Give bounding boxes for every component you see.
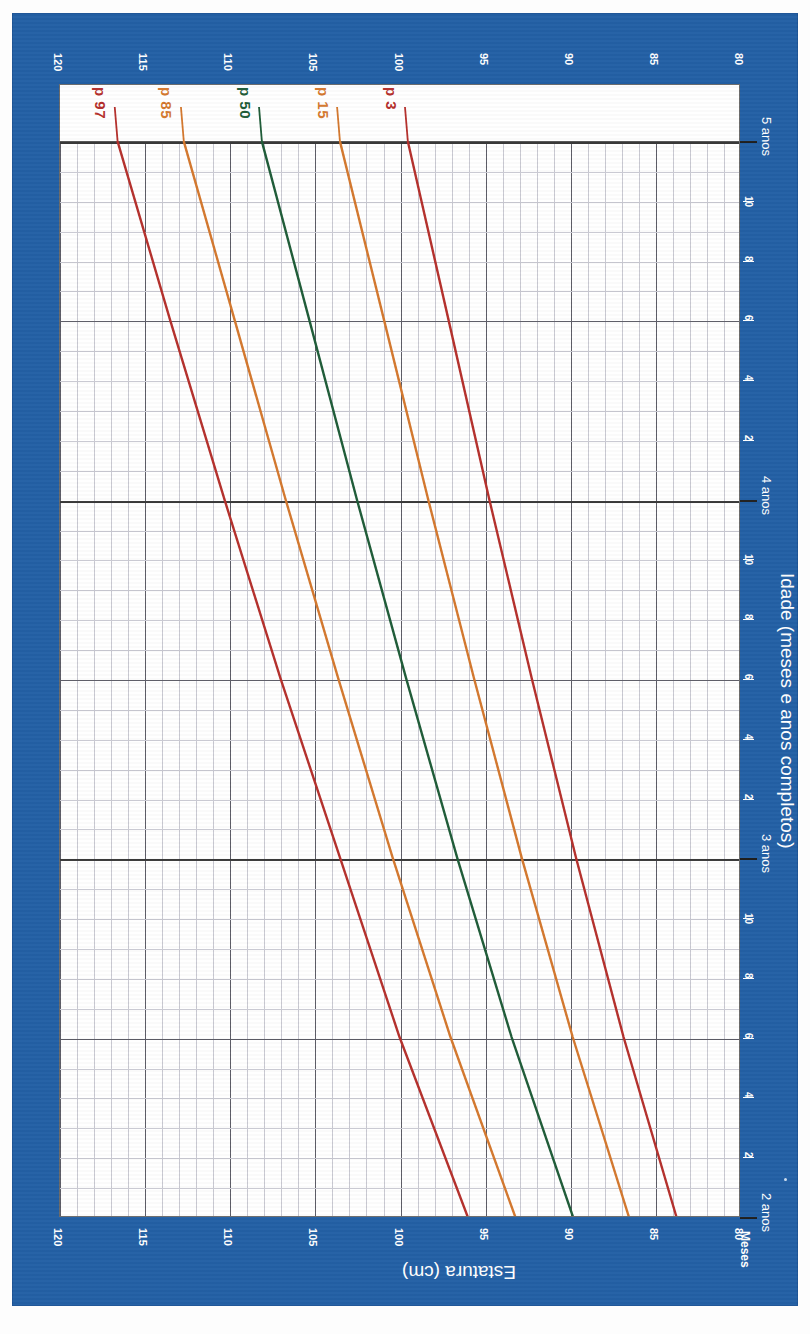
- percentile-label: p 3: [383, 87, 400, 110]
- y-axis-tick-label: 110: [222, 53, 234, 71]
- percentile-curve: [118, 142, 468, 1216]
- chart-card: 12011511010510095908580 p 97p 85p 50p 15…: [12, 13, 798, 1306]
- x-axis-year-tick: [740, 1217, 757, 1219]
- x-axis-year-tick: [740, 500, 757, 502]
- x-axis-year-label: 4 anos: [759, 476, 774, 515]
- x-axis-month-label: 4: [743, 375, 754, 381]
- percentile-leader-line: [405, 107, 408, 143]
- percentile-curve: [408, 142, 676, 1216]
- x-axis-year-tick: [740, 141, 757, 143]
- y-axis-tick-label: 100: [393, 1228, 405, 1246]
- percentile-leader-line: [337, 107, 340, 143]
- y-axis-tick-label: 90: [563, 1228, 575, 1240]
- x-axis-month-label: 8: [743, 256, 754, 262]
- months-axis-label: Meses: [738, 1231, 752, 1268]
- x-axis-month-label: 4: [743, 734, 754, 740]
- y-axis-tick-label: 105: [307, 1228, 319, 1246]
- percentile-curves: [60, 85, 739, 1216]
- x-axis-month-label: 2: [743, 794, 754, 800]
- y-axis-title: Estatura (cm): [402, 1261, 516, 1283]
- y-axis-tick-label: 115: [137, 53, 149, 71]
- x-axis-month-label: 6: [743, 1033, 754, 1039]
- y-axis-tick-label: 80: [733, 53, 745, 65]
- page-root: 12011511010510095908580 p 97p 85p 50p 15…: [0, 0, 810, 1334]
- x-axis-month-label: 10: [743, 913, 754, 924]
- y-axis-tick-label: 85: [648, 1228, 660, 1240]
- x-axis-month-label: 10: [743, 554, 754, 565]
- x-axis-year-label: 5 anos: [759, 117, 774, 156]
- percentile-curve: [262, 142, 573, 1216]
- scan-speck: [784, 1178, 787, 1181]
- percentile-label: p 85: [158, 87, 175, 119]
- percentile-leader-line: [181, 107, 184, 143]
- x-axis-month-label: 4: [743, 1092, 754, 1098]
- x-axis-year-tick: [740, 858, 757, 860]
- y-axis-tick-label: 100: [393, 53, 405, 71]
- x-axis-year-label: 3 anos: [759, 834, 774, 873]
- plot-area: p 97p 85p 50p 15p 3: [59, 84, 740, 1217]
- x-axis-month-label: 6: [743, 315, 754, 321]
- y-axis-tick-label: 90: [563, 53, 575, 65]
- percentile-label: p 50: [237, 87, 254, 119]
- y-axis-tick-label: 95: [478, 53, 490, 65]
- x-axis-month-label: 8: [743, 614, 754, 620]
- y-axis-tick-label: 115: [137, 1228, 149, 1246]
- percentile-label: p 97: [92, 87, 109, 119]
- percentile-leader-line: [259, 107, 262, 143]
- y-axis-tick-label: 120: [52, 53, 64, 71]
- x-axis-month-label: 2: [743, 1152, 754, 1158]
- y-axis-tick-label: 120: [52, 1228, 64, 1246]
- x-axis-month-label: 8: [743, 973, 754, 979]
- percentile-leader-line: [115, 107, 118, 143]
- x-axis-month-label: 10: [743, 196, 754, 207]
- x-axis-month-label: 6: [743, 674, 754, 680]
- x-axis-title: Idade (meses e anos completos): [776, 573, 798, 849]
- x-axis-month-label: 2: [743, 435, 754, 441]
- x-axis-year-label: 2 anos: [759, 1193, 774, 1232]
- y-axis-tick-label: 95: [478, 1228, 490, 1240]
- y-axis-tick-label: 85: [648, 53, 660, 65]
- y-axis-tick-label: 105: [307, 53, 319, 71]
- y-axis-tick-label: 110: [222, 1228, 234, 1246]
- percentile-curve: [184, 142, 515, 1216]
- percentile-label: p 15: [315, 87, 332, 119]
- percentile-curve: [340, 142, 629, 1216]
